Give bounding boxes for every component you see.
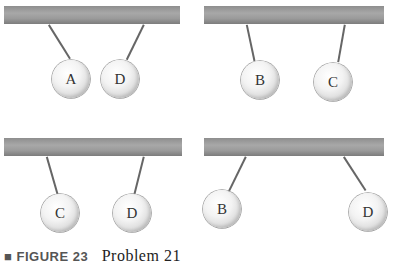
string xyxy=(134,157,145,195)
charged-ball-b: B xyxy=(203,190,241,228)
charged-ball-c: C xyxy=(41,194,79,232)
charged-ball-d: D xyxy=(349,193,387,231)
ball-label: B xyxy=(217,201,227,218)
ball-label: D xyxy=(127,205,138,222)
charged-ball-d: D xyxy=(101,60,139,98)
caption-text: Problem 21 xyxy=(102,247,181,264)
support-bar xyxy=(4,6,180,24)
string xyxy=(126,24,145,60)
support-bar xyxy=(204,138,384,156)
string xyxy=(338,25,346,63)
figure-label: ■ FIGURE 23 xyxy=(4,249,88,264)
ball-label: D xyxy=(363,204,374,221)
support-bar xyxy=(204,6,384,24)
charged-ball-b: B xyxy=(241,61,279,99)
ball-label: C xyxy=(55,205,65,222)
charged-ball-d: D xyxy=(113,194,151,232)
charged-ball-c: C xyxy=(314,63,352,101)
ball-label: C xyxy=(328,74,338,91)
string xyxy=(343,156,366,190)
ball-label: D xyxy=(115,71,126,88)
figure-caption: ■ FIGURE 23 Problem 21 xyxy=(4,247,181,265)
support-bar xyxy=(4,138,182,156)
ball-label: B xyxy=(255,72,265,89)
string xyxy=(228,156,247,193)
string xyxy=(246,25,255,62)
string xyxy=(48,24,71,59)
charged-ball-a: A xyxy=(52,60,90,98)
string xyxy=(46,157,58,195)
ball-label: A xyxy=(66,71,77,88)
